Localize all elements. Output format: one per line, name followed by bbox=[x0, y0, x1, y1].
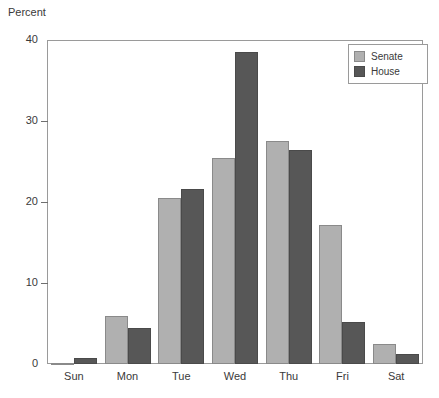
bar-sat-house bbox=[396, 354, 419, 364]
legend-swatch-house-icon bbox=[354, 66, 365, 77]
bar-sun-senate bbox=[51, 363, 74, 365]
legend-label-house: House bbox=[371, 66, 400, 77]
bar-wed-house bbox=[235, 52, 258, 364]
x-axis-label-sun: Sun bbox=[47, 370, 101, 383]
y-axis-tick-label-text: 10 bbox=[2, 277, 38, 288]
bar-chart: Percent 010203040SunMonTueWedThuFriSat S… bbox=[0, 0, 439, 398]
y-axis-tick-label: 40 bbox=[0, 34, 38, 45]
bar-fri-senate bbox=[319, 225, 342, 364]
bar-tue-house bbox=[181, 189, 204, 364]
y-axis-title: Percent bbox=[8, 6, 46, 19]
y-axis-tick-label: 0 bbox=[0, 358, 38, 369]
x-axis-label-fri: Fri bbox=[316, 370, 370, 383]
legend-item-senate: Senate bbox=[354, 49, 422, 64]
bar-fri-house bbox=[342, 322, 365, 364]
y-axis-tick-label-text: 30 bbox=[2, 115, 38, 126]
y-axis-tick-label: 30 bbox=[0, 115, 38, 126]
bar-wed-senate bbox=[212, 158, 235, 364]
y-axis-tick-label: 10 bbox=[0, 277, 38, 288]
x-axis-label-mon: Mon bbox=[101, 370, 155, 383]
x-axis-label-thu: Thu bbox=[262, 370, 316, 383]
bar-thu-house bbox=[289, 150, 312, 364]
bar-thu-senate bbox=[266, 141, 289, 364]
legend-item-house: House bbox=[354, 64, 422, 79]
bar-sun-house bbox=[74, 358, 97, 364]
y-axis-tick bbox=[41, 283, 48, 284]
x-axis-label-tue: Tue bbox=[154, 370, 208, 383]
y-axis-tick-label: 20 bbox=[0, 196, 38, 207]
bar-tue-senate bbox=[158, 198, 181, 364]
bar-sat-senate bbox=[373, 344, 396, 364]
bar-mon-house bbox=[128, 328, 151, 364]
y-axis-tick-label-text: 0 bbox=[2, 358, 38, 369]
legend-label-senate: Senate bbox=[371, 51, 403, 62]
legend-swatch-senate-icon bbox=[354, 51, 365, 62]
y-axis-tick-label-text: 40 bbox=[2, 34, 38, 45]
y-axis-tick bbox=[41, 121, 48, 122]
bar-mon-senate bbox=[105, 316, 128, 364]
chart-legend: Senate House bbox=[348, 44, 428, 84]
x-axis-label-sat: Sat bbox=[369, 370, 423, 383]
x-axis-label-wed: Wed bbox=[208, 370, 262, 383]
y-axis-tick-label-text: 20 bbox=[2, 196, 38, 207]
y-axis-tick bbox=[41, 202, 48, 203]
